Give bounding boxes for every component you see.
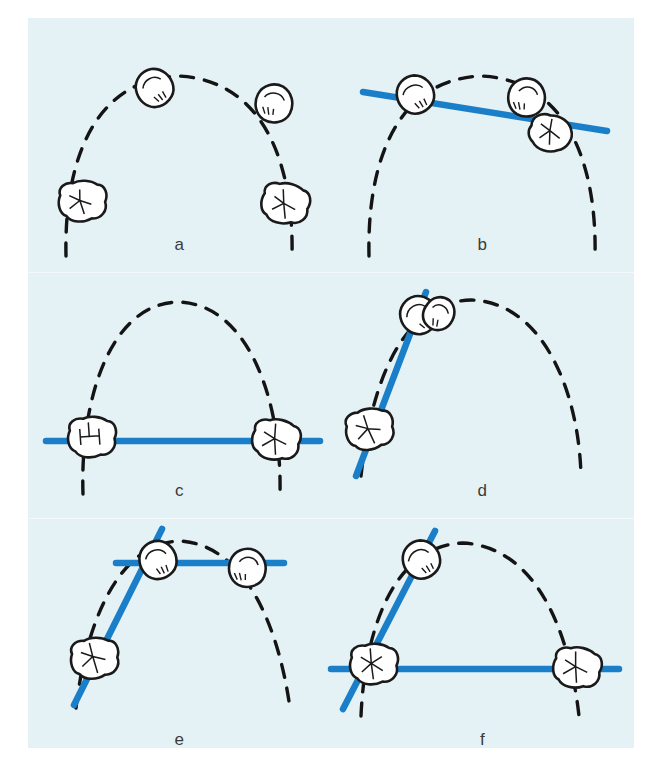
tooth-premolar-upper-left-e [136, 538, 179, 582]
tooth-molar-right-c [251, 418, 302, 462]
figure-root: a b [0, 0, 657, 766]
arch-curve-d [361, 300, 581, 476]
tooth-premolar-upper-left-b [392, 71, 438, 118]
tooth-premolar-upper-right-e [226, 546, 269, 590]
tooth-molar-lower-right [259, 181, 311, 226]
panel-label-f: f [331, 730, 634, 750]
tooth-molar-left-c [67, 415, 118, 459]
panel-label-c: c [28, 481, 331, 501]
panel-label-b: b [331, 235, 634, 255]
panel-c: c [28, 264, 331, 507]
tooth-molar-lower-left-e [68, 634, 123, 682]
panel-b: b [331, 18, 634, 261]
panel-f: f [331, 513, 634, 756]
panel-label-d: d [331, 481, 634, 501]
arch-curve-f [361, 543, 579, 716]
tooth-premolar-upper-left-f [398, 536, 444, 583]
tooth-molar-lower-left-d [342, 404, 399, 455]
panel-d: d [331, 264, 634, 507]
panel-e: e [28, 513, 331, 756]
tooth-premolar-upper-right [251, 80, 297, 127]
tooth-molar-lower-left-f [349, 642, 400, 686]
tooth-molar-right-b [526, 112, 575, 155]
tooth-molar-lower-left [57, 178, 109, 223]
tooth-premolar-upper-left [130, 63, 178, 112]
panel-label-a: a [28, 235, 331, 255]
panel-a: a [28, 18, 331, 261]
arch-curve-c [83, 302, 280, 494]
panel-label-e: e [28, 730, 331, 750]
tooth-molar-lower-right-f [552, 646, 603, 690]
